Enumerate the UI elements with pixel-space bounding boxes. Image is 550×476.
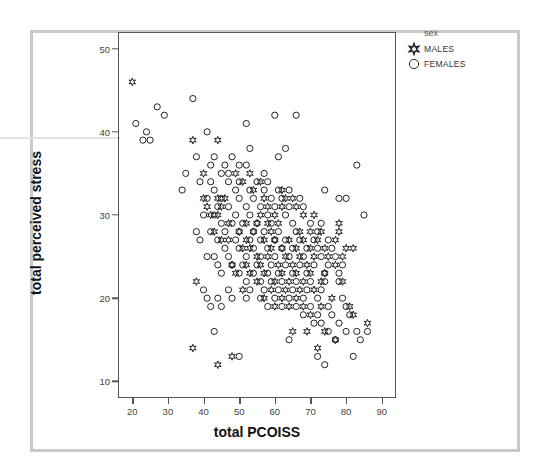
series-males [129,78,371,368]
data-point-female [208,179,214,185]
data-point-male [232,170,239,178]
y-tick-mark [112,297,118,298]
y-tick-mark [112,48,118,49]
data-point-female [311,262,317,268]
data-point-female [236,162,242,168]
data-point-male [272,303,279,311]
data-point-female [133,120,139,126]
data-point-female [211,253,217,259]
data-point-female [233,187,239,193]
data-point-female [193,229,199,235]
data-point-female [222,245,228,251]
data-point-female [268,262,274,268]
data-point-female [218,303,224,309]
data-point-male [329,294,336,302]
data-point-male [293,203,300,211]
x-axis-title: total PCOISS [118,424,396,440]
data-point-female [325,237,331,243]
legend-item-males[interactable]: MALES [406,41,516,56]
data-point-female [222,229,228,235]
legend: sex MALESFEMALES [406,28,516,71]
data-point-female [154,104,160,110]
data-point-female [225,204,231,210]
x-tick-label: 20 [118,406,146,417]
data-point-female [197,237,203,243]
data-point-female [200,212,206,218]
data-point-female [336,270,342,276]
x-tick-label: 80 [332,406,360,417]
data-point-male [314,344,321,352]
data-point-female [325,262,331,268]
data-point-female [236,195,242,201]
data-point-male [225,236,232,244]
y-tick-mark [112,214,118,215]
x-tick-mark [132,398,133,404]
data-point-female [297,195,303,201]
data-point-male [200,170,207,178]
y-tick-label: 20 [84,293,110,304]
data-point-male [332,261,339,269]
data-point-female [265,303,271,309]
data-point-female [282,212,288,218]
legend-title: sex [424,28,516,38]
data-point-female [318,253,324,259]
data-point-female [161,112,167,118]
data-point-female [282,262,288,268]
data-point-female [311,320,317,326]
data-point-male [215,361,222,369]
data-point-female [179,187,185,193]
data-point-female [247,212,253,218]
data-point-female [204,129,210,135]
data-point-female [318,320,324,326]
data-point-male [364,319,371,327]
data-point-female [197,179,203,185]
data-point-male [350,244,357,252]
data-point-male [229,353,236,361]
data-point-female [218,220,224,226]
x-tick-mark [275,398,276,404]
data-point-female [354,162,360,168]
data-point-female [275,154,281,160]
y-tick-label: 10 [84,376,110,387]
x-tick-label: 40 [190,406,218,417]
data-point-male [304,261,311,269]
x-tick-label: 50 [225,406,253,417]
x-tick-label: 70 [296,406,324,417]
data-point-female [268,195,274,201]
data-point-female [200,287,206,293]
data-point-female [329,312,335,318]
data-point-female [307,220,313,226]
data-point-male [311,253,318,261]
legend-entries: MALESFEMALES [406,41,516,71]
data-point-male [239,286,246,294]
data-point-female [314,353,320,359]
data-point-female [215,295,221,301]
data-point-male [289,195,296,203]
data-point-female [300,295,306,301]
data-point-female [243,295,249,301]
data-point-female [329,245,335,251]
data-point-female [193,154,199,160]
data-point-male [311,211,318,219]
data-point-female [339,262,345,268]
data-point-female [211,154,217,160]
data-point-female [336,320,342,326]
data-point-female [282,145,288,151]
data-point-female [211,328,217,334]
data-point-female [286,337,292,343]
data-point-female [350,353,356,359]
data-point-female [225,170,231,176]
legend-item-females[interactable]: FEMALES [406,56,516,71]
data-point-female [322,362,328,368]
data-point-female [243,162,249,168]
data-point-female [318,287,324,293]
data-point-female [343,195,349,201]
data-point-female [314,245,320,251]
data-point-female [233,212,239,218]
data-point-female [243,204,249,210]
data-point-female [265,212,271,218]
data-point-male [268,286,275,294]
x-tick-label: 90 [368,406,396,417]
data-point-male [129,78,136,86]
data-point-female [307,303,313,309]
